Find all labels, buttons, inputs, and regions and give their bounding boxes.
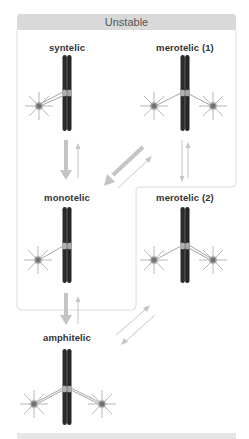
arrow-monotelic-to-syntelic xyxy=(76,143,81,178)
label-amphitelic: amphitelic xyxy=(22,332,112,343)
diagram-graphics xyxy=(0,0,249,439)
arrow-monotelic-to-amphitelic xyxy=(60,293,72,325)
label-merotelic-2: merotelic (2) xyxy=(140,192,230,203)
arrow-merotelic2-to-amphitelic xyxy=(121,315,155,345)
state-merotelic-2-graphic xyxy=(140,207,227,283)
unstable-group-header: Unstable xyxy=(17,14,236,30)
state-merotelic-1-graphic xyxy=(140,55,227,131)
arrow-merotelic1-to-monotelic xyxy=(104,147,143,186)
state-monotelic-graphic xyxy=(24,207,72,283)
unstable-region-outline xyxy=(17,30,236,310)
label-monotelic: monotelic xyxy=(22,192,112,203)
state-amphitelic-graphic xyxy=(20,349,116,425)
arrow-merotelic1-to-merotelic2 xyxy=(180,140,185,182)
arrow-syntelic-to-monotelic xyxy=(60,140,72,180)
state-syntelic-graphic xyxy=(25,55,72,131)
label-syntelic: syntelic xyxy=(22,42,112,53)
bottom-divider xyxy=(17,433,236,439)
label-merotelic-1: merotelic (1) xyxy=(140,42,230,53)
attachment-diagram: Unstable syntelic merotelic (1) monoteli… xyxy=(0,0,249,439)
arrow-monotelic-to-merotelic1 xyxy=(118,156,152,188)
arrow-merotelic2-to-merotelic1 xyxy=(186,142,191,178)
unstable-group-label: Unstable xyxy=(17,14,236,30)
